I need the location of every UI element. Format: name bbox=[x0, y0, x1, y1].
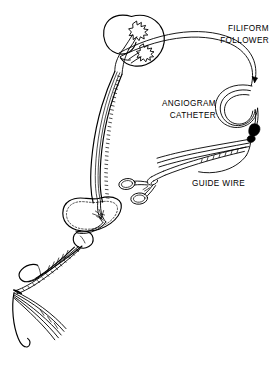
medical-illustration-figure: FILIFORM FOLLOWER ANGIOGRAM CATHETER GUI… bbox=[0, 0, 274, 368]
label-angiogram-catheter-line2: CATHETER bbox=[170, 111, 216, 120]
label-filiform-follower-line1: FILIFORM bbox=[228, 24, 269, 33]
label-angiogram-catheter-line1: ANGIOGRAM bbox=[162, 99, 216, 108]
illustration-canvas: FILIFORM FOLLOWER ANGIOGRAM CATHETER GUI… bbox=[0, 0, 274, 368]
label-filiform-follower-line2: FOLLOWER bbox=[220, 36, 269, 45]
label-guide-wire: GUIDE WIRE bbox=[192, 179, 245, 188]
label-guide-wire-line1: GUIDE WIRE bbox=[192, 179, 245, 188]
